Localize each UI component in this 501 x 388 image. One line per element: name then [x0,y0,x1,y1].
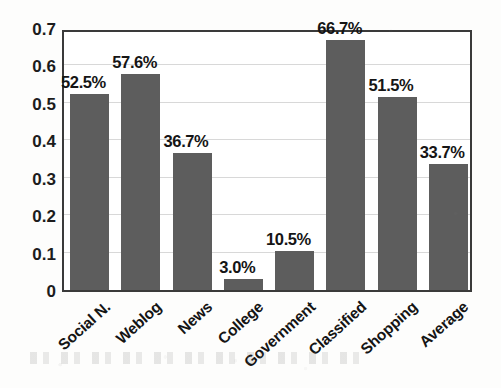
bar[interactable] [224,279,263,290]
bar-group: 33.7% [423,32,474,290]
bleed-through-text [30,352,360,364]
x-axis-category-label: News [175,298,217,338]
bar-group: 10.5% [269,32,320,290]
bar-value-label: 33.7% [416,143,469,162]
bar[interactable] [326,40,365,290]
y-axis-tick-label: 0.5 [6,95,56,115]
bar-group: 57.6% [115,32,166,290]
bar[interactable] [121,74,160,290]
x-axis-category-label: Average [416,298,472,351]
bar[interactable] [429,164,468,290]
y-axis-tick-label: 0.1 [6,245,56,265]
bar-group: 3.0% [218,32,269,290]
bar-value-label: 57.6% [108,53,161,72]
bar[interactable] [378,97,417,290]
bar-chart: 00.10.20.30.40.50.60.7 52.5%57.6%36.7%3.… [0,0,501,388]
bar[interactable] [173,153,212,290]
bar-group: 66.7% [320,32,371,290]
x-axis-category-label: Weblog [112,298,165,348]
y-axis-tick-label: 0.4 [6,132,56,152]
bar-value-label: 51.5% [365,76,418,95]
bar-value-label: 36.7% [160,132,213,151]
y-axis-tick-label: 0 [6,282,56,302]
bar-value-label: 52.5% [57,73,110,92]
y-axis-tick-label: 0.6 [6,57,56,77]
bar-group: 36.7% [167,32,218,290]
bar[interactable] [70,94,109,291]
bar-value-label: 10.5% [262,230,315,249]
bar[interactable] [275,251,314,290]
bar-value-label: 66.7% [313,19,366,38]
plot-area: 52.5%57.6%36.7%3.0%10.5%66.7%51.5%33.7% [62,30,472,292]
y-axis-tick-label: 0.7 [6,20,56,40]
y-axis-tick-label: 0.2 [6,207,56,227]
y-axis-tick-label: 0.3 [6,170,56,190]
x-axis-category-label: Social N. [54,298,113,354]
bar-value-label: 3.0% [211,258,264,277]
